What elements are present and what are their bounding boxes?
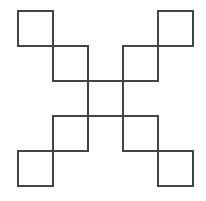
square-top-left-inner xyxy=(52,45,89,82)
square-bottom-right-outer xyxy=(157,150,194,187)
square-center xyxy=(87,80,124,117)
square-bottom-right-inner xyxy=(122,115,159,152)
square-top-left-outer xyxy=(17,10,54,47)
square-bottom-left-inner xyxy=(52,115,89,152)
square-top-right-inner xyxy=(122,45,159,82)
x-squares-diagram xyxy=(0,0,206,201)
square-bottom-left-outer xyxy=(17,150,54,187)
square-top-right-outer xyxy=(157,10,194,47)
